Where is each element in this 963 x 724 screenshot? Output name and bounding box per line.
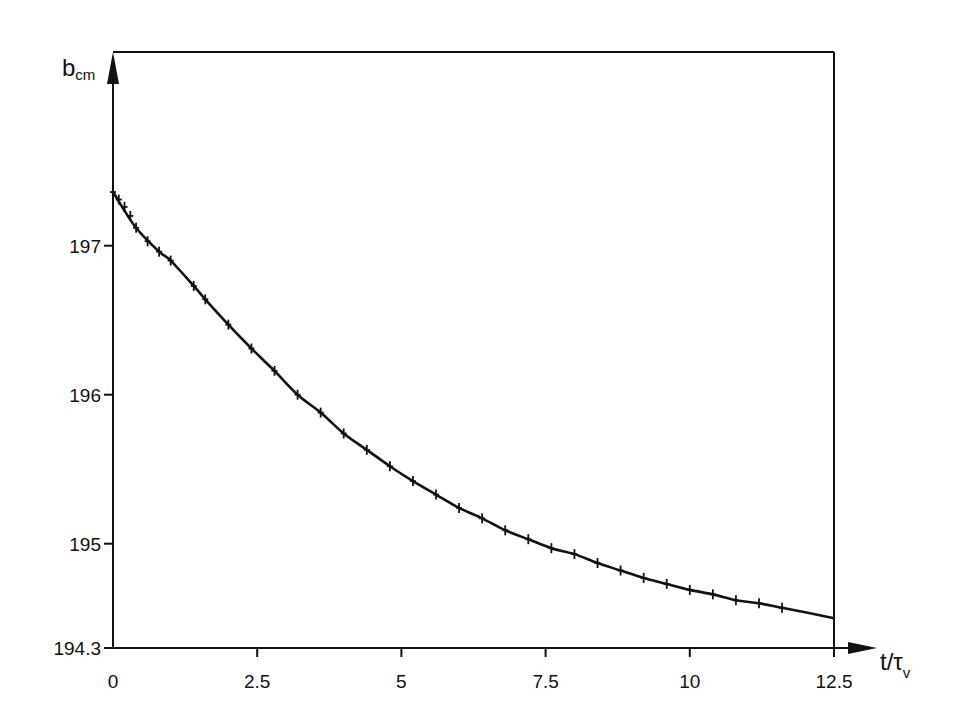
- series-line: [113, 192, 834, 618]
- y-axis-label: bcm: [62, 54, 95, 83]
- data-point-marker: [456, 503, 462, 513]
- x-tick-label: 0: [108, 671, 119, 692]
- y-tick-label: 196: [69, 385, 101, 406]
- x-axis-arrow-icon: [848, 642, 877, 654]
- data-point-marker: [410, 476, 416, 486]
- x-ticks: 02.557.51012.5: [108, 648, 853, 692]
- data-point-marker: [502, 525, 508, 535]
- data-point-marker: [571, 549, 577, 559]
- y-tick-label: 195: [69, 534, 101, 555]
- data-point-marker: [387, 461, 393, 471]
- data-point-marker: [433, 490, 439, 500]
- y-axis-label-subscript: cm: [75, 66, 95, 83]
- y-tick-label: 197: [69, 236, 101, 257]
- x-axis-label: t/τv: [880, 648, 911, 681]
- data-point-marker: [641, 573, 647, 583]
- series-markers: [110, 187, 785, 613]
- y-axis-label-main: b: [62, 54, 75, 81]
- chart: 02.557.51012.5 194.3195196197 bcm t/τv: [0, 0, 963, 724]
- data-point-marker: [479, 513, 485, 523]
- data-point-marker: [664, 579, 670, 589]
- x-axis-label-main: t/τ: [880, 648, 903, 675]
- data-point-marker: [779, 603, 785, 613]
- x-tick-label: 10: [679, 671, 700, 692]
- x-tick-label: 5: [396, 671, 407, 692]
- data-point-marker: [595, 558, 601, 568]
- data-point-marker: [525, 534, 531, 544]
- data-point-marker: [710, 589, 716, 599]
- x-tick-label: 12.5: [816, 671, 853, 692]
- y-ticks: 194.3195196197: [53, 236, 113, 659]
- data-point-marker: [618, 566, 624, 576]
- data-point-marker: [687, 585, 693, 595]
- data-point-marker: [122, 202, 128, 212]
- data-point-marker: [127, 211, 133, 221]
- data-point-marker: [548, 543, 554, 553]
- data-point-marker: [341, 428, 347, 438]
- y-axis-arrow-icon: [107, 52, 119, 84]
- data-point-marker: [364, 445, 370, 455]
- x-axis-label-subscript: v: [903, 664, 911, 681]
- y-tick-label: 194.3: [53, 638, 101, 659]
- x-tick-label: 2.5: [244, 671, 270, 692]
- data-point-marker: [756, 598, 762, 608]
- data-point-marker: [733, 595, 739, 605]
- x-tick-label: 7.5: [532, 671, 558, 692]
